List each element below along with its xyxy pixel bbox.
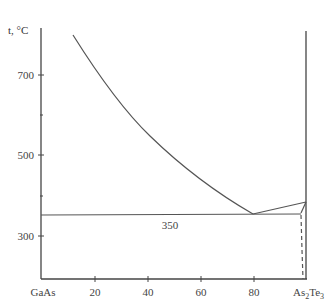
- solid-solution-boundary-dashed: [301, 215, 303, 279]
- x-tick-label-60: 60: [196, 286, 208, 298]
- y-tick-label-700: 700: [18, 69, 35, 81]
- y-axis-title: t, °C: [8, 24, 28, 36]
- solidus-link: [301, 202, 306, 213]
- x-tick-label-20: 20: [90, 286, 102, 298]
- liquidus-curve-left: [73, 35, 253, 214]
- y-tick-label-300: 300: [18, 230, 35, 242]
- eutectic-temperature-label: 350: [162, 219, 179, 231]
- x-tick-label-40: 40: [143, 286, 155, 298]
- liquidus-curve-right: [253, 202, 306, 214]
- eutectic-isotherm: [41, 214, 301, 215]
- x-tick-label-as2te3: As2Te3: [293, 286, 324, 301]
- phase-diagram: t, °C 700 500 300 GaAs 20 40 60 80 As2Te…: [0, 0, 333, 306]
- x-tick-label-gaas: GaAs: [30, 286, 55, 298]
- y-tick-label-500: 500: [18, 149, 35, 161]
- x-tick-label-80: 80: [249, 286, 261, 298]
